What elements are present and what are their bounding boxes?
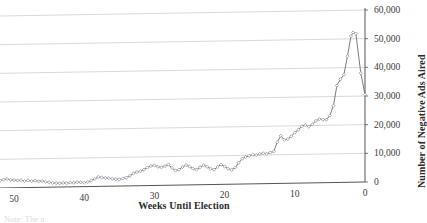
plot-area	[0, 6, 368, 188]
y-tick-label: 30,000	[374, 91, 400, 101]
x-tick-label: 10	[290, 189, 300, 200]
x-tick-label: 0	[363, 188, 368, 199]
y-tick-label: 50,000	[374, 34, 400, 44]
y-axis-title: Number of Negative Ads Aired	[403, 12, 417, 190]
axis-lines	[0, 8, 368, 188]
chart-canvas	[0, 6, 368, 188]
y-tick-label: 0	[374, 177, 379, 187]
y-tick-label: 40,000	[374, 62, 400, 72]
data-series-markers	[0, 31, 367, 185]
y-tick-label: 10,000	[374, 148, 400, 158]
y-axis-title-text: Number of Negative Ads Aired	[416, 54, 427, 188]
gridlines	[0, 10, 365, 159]
chart-figure: 010,00020,00030,00040,00050,00060,000 Nu…	[0, 0, 427, 223]
y-tick-label: 60,000	[374, 5, 400, 15]
data-series-line	[0, 33, 365, 184]
x-axis-title: Weeks Until Election	[0, 200, 368, 211]
caption-fragment: Note: The n	[4, 214, 44, 223]
y-tick-label: 20,000	[374, 120, 400, 130]
